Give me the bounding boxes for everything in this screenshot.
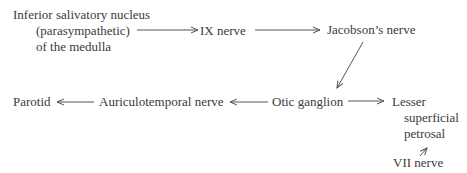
parotid-label: Parotid [13,94,51,109]
otic-ganglion-label: Otic ganglion [272,94,343,109]
jacobson-nerve-label: Jacobson’s nerve [327,22,415,37]
lesser-label-line2: superficial [404,110,459,125]
nucleus-label-line3: of the medulla [36,39,111,54]
nucleus-label-line1: Inferior salivatory nucleus [13,7,150,22]
lesser-label-line3: petrosal [404,126,445,141]
arrow-jacobson-to-otic [337,42,363,88]
auriculotemporal-nerve-label: Auriculotemporal nerve [99,94,224,109]
ix-nerve-label: IX nerve [200,23,246,38]
nucleus-label-line2: (parasympathetic) [36,23,130,38]
lesser-label-line1: Lesser [392,94,426,109]
vii-nerve-label: VII nerve [393,155,443,170]
